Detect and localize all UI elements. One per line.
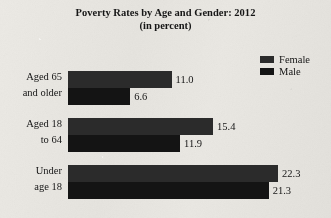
category-label-0: Aged 65 and older (0, 69, 62, 101)
legend-item-female: Female (260, 54, 310, 65)
category-label-0-line1: Aged 65 (26, 71, 62, 82)
legend-label-female: Female (279, 54, 310, 65)
category-label-2-line2: age 18 (0, 179, 62, 195)
chart-subtitle: (in percent) (0, 19, 331, 32)
bar-female-2 (68, 165, 278, 182)
value-label-female-0: 11.0 (172, 71, 194, 88)
category-label-2: Under age 18 (0, 163, 62, 195)
category-label-1: Aged 18 to 64 (0, 116, 62, 148)
plot-area: Aged 65 and older 11.0 6.6 Aged 18 to 64… (0, 66, 331, 218)
bar-male-1 (68, 135, 180, 152)
bar-group-aged-65-and-older: Aged 65 and older 11.0 6.6 (0, 71, 331, 105)
value-label-male-2: 21.3 (269, 182, 291, 199)
chart-canvas: Poverty Rates by Age and Gender: 2012 (i… (0, 0, 331, 218)
value-label-male-1: 11.9 (180, 135, 202, 152)
bar-male-2 (68, 182, 269, 199)
bar-group-under-age-18: Under age 18 22.3 21.3 (0, 165, 331, 199)
category-label-1-line2: to 64 (0, 132, 62, 148)
bar-male-0 (68, 88, 130, 105)
chart-title-block: Poverty Rates by Age and Gender: 2012 (i… (0, 6, 331, 32)
legend-swatch-female-icon (260, 56, 274, 63)
chart-title: Poverty Rates by Age and Gender: 2012 (0, 6, 331, 19)
value-label-female-2: 22.3 (278, 165, 300, 182)
value-label-female-1: 15.4 (213, 118, 235, 135)
value-label-male-0: 6.6 (130, 88, 147, 105)
category-label-0-line2: and older (0, 85, 62, 101)
bar-female-1 (68, 118, 213, 135)
bar-female-0 (68, 71, 172, 88)
bar-group-aged-18-to-64: Aged 18 to 64 15.4 11.9 (0, 118, 331, 152)
category-label-1-line1: Aged 18 (26, 118, 62, 129)
category-label-2-line1: Under (36, 165, 62, 176)
